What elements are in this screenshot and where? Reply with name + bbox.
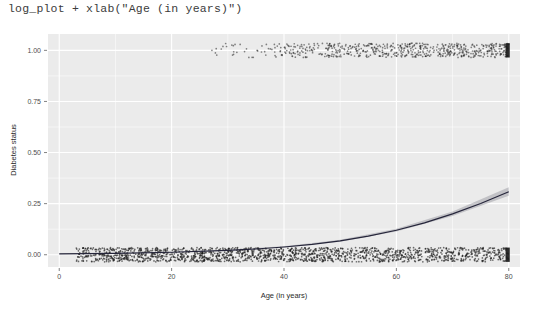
x-tick-label: 0 xyxy=(57,273,61,280)
x-tick-label: 40 xyxy=(280,273,288,280)
console-code-line: log_plot + xlab("Age (in years)") xyxy=(8,2,242,15)
y-tick-label: 0.75 xyxy=(27,98,41,105)
x-axis-ticks: 020406080 xyxy=(57,268,512,280)
y-tick-label: 1.00 xyxy=(27,47,41,54)
y-axis-ticks: 0.000.250.500.751.00 xyxy=(27,47,47,258)
y-axis-title: Diabetes status xyxy=(9,124,18,176)
x-tick-label: 60 xyxy=(392,273,400,280)
plot-canvas: 020406080 0.000.250.500.751.00 Age (in y… xyxy=(0,26,544,310)
y-tick-label: 0.50 xyxy=(27,149,41,156)
x-tick-label: 80 xyxy=(505,273,513,280)
x-axis-title: Age (in years) xyxy=(261,291,308,300)
log-plot-figure: 020406080 0.000.250.500.751.00 Age (in y… xyxy=(0,26,544,310)
y-tick-label: 0.00 xyxy=(27,251,41,258)
y-tick-label: 0.25 xyxy=(27,200,41,207)
x-tick-label: 20 xyxy=(168,273,176,280)
